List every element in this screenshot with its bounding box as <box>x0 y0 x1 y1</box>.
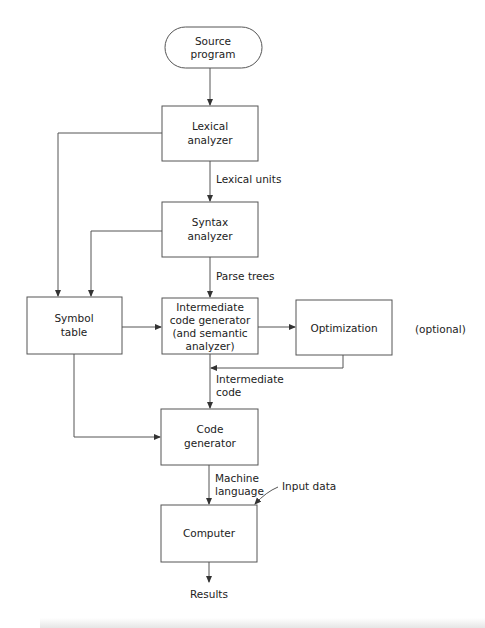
edge-optimization-feedback <box>211 355 343 368</box>
edge-label-intermediate-code-line1: Intermediate <box>216 373 284 385</box>
edge-label-parse-trees: Parse trees <box>216 270 274 282</box>
edge-syntax-to-symbol <box>91 231 162 296</box>
edge-label-machine-language-line2: language <box>215 485 264 497</box>
annotation-optional: (optional) <box>415 323 466 335</box>
edge-label-machine-language-line1: Machine <box>215 472 259 484</box>
edge-label-intermediate-code-line2: code <box>216 386 241 398</box>
edge-label-lexical-units: Lexical units <box>216 173 281 185</box>
node-intermediate-line4: analyzer) <box>185 340 234 352</box>
node-source-line1: Source <box>195 35 231 47</box>
node-symbol-table: Symbol table <box>27 297 122 354</box>
edge-label-input-data: Input data <box>282 480 336 492</box>
node-lexical-analyzer: Lexical analyzer <box>162 106 258 161</box>
scan-edge-shadow <box>40 618 485 628</box>
node-source-program: Source program <box>165 27 262 68</box>
node-intermediate-line2: code generator <box>170 314 251 326</box>
results-label: Results <box>190 588 228 600</box>
node-computer: Computer <box>161 505 257 562</box>
node-intermediate-line3: (and semantic <box>172 327 247 339</box>
node-codegen-line2: generator <box>184 437 237 449</box>
node-lexical-line1: Lexical <box>192 120 228 132</box>
edge-lexical-to-symbol <box>58 133 162 296</box>
node-syntax-line2: analyzer <box>188 230 234 242</box>
compilation-flowchart: Source program Lexical analyzer Lexical … <box>0 0 485 628</box>
node-intermediate-line1: Intermediate <box>176 301 244 313</box>
node-syntax-analyzer: Syntax analyzer <box>162 202 258 257</box>
node-lexical-line2: analyzer <box>188 134 234 146</box>
node-symbol-line1: Symbol <box>54 312 93 324</box>
node-intermediate-code-generator: Intermediate code generator (and semanti… <box>162 298 258 354</box>
node-symbol-line2: table <box>61 326 88 338</box>
node-syntax-line1: Syntax <box>192 216 228 228</box>
node-computer-label: Computer <box>183 527 236 539</box>
node-optimization: Optimization <box>296 300 392 355</box>
node-codegen-line1: Code <box>197 423 224 435</box>
node-optimization-label: Optimization <box>310 322 377 334</box>
node-code-generator: Code generator <box>161 409 258 465</box>
edge-symbol-to-codegen <box>74 354 160 437</box>
node-source-line2: program <box>191 48 236 60</box>
